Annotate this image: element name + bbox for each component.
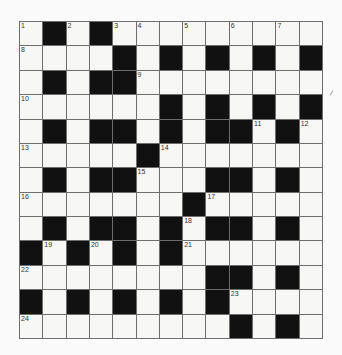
answer-cell[interactable] [67,71,89,94]
answer-cell[interactable]: 6 [230,22,252,45]
answer-cell[interactable]: 15 [137,168,159,191]
answer-cell[interactable] [67,217,89,240]
answer-cell[interactable]: 19 [43,241,65,264]
answer-cell[interactable] [90,46,112,69]
answer-cell[interactable] [206,22,228,45]
answer-cell[interactable]: 18 [183,217,205,240]
answer-cell[interactable] [183,315,205,338]
answer-cell[interactable] [253,315,275,338]
answer-cell[interactable]: 21 [183,241,205,264]
answer-cell[interactable] [230,241,252,264]
answer-cell[interactable] [183,71,205,94]
answer-cell[interactable] [67,95,89,118]
answer-cell[interactable] [300,144,322,167]
answer-cell[interactable]: 7 [276,22,298,45]
answer-cell[interactable] [206,144,228,167]
answer-cell[interactable] [160,71,182,94]
answer-cell[interactable]: 1 [20,22,42,45]
answer-cell[interactable] [113,266,135,289]
answer-cell[interactable] [137,193,159,216]
answer-cell[interactable] [137,315,159,338]
answer-cell[interactable] [230,95,252,118]
answer-cell[interactable] [206,315,228,338]
answer-cell[interactable] [183,95,205,118]
answer-cell[interactable]: 20 [90,241,112,264]
answer-cell[interactable] [253,193,275,216]
answer-cell[interactable] [300,315,322,338]
answer-cell[interactable] [276,95,298,118]
answer-cell[interactable]: 5 [183,22,205,45]
answer-cell[interactable] [90,290,112,313]
answer-cell[interactable] [20,217,42,240]
answer-cell[interactable] [160,193,182,216]
answer-cell[interactable] [90,95,112,118]
answer-cell[interactable]: 10 [20,95,42,118]
answer-cell[interactable] [276,193,298,216]
answer-cell[interactable] [230,193,252,216]
answer-cell[interactable] [137,120,159,143]
answer-cell[interactable]: 13 [20,144,42,167]
answer-cell[interactable] [183,168,205,191]
answer-cell[interactable]: 16 [20,193,42,216]
answer-cell[interactable] [137,46,159,69]
answer-cell[interactable] [230,71,252,94]
answer-cell[interactable] [113,193,135,216]
answer-cell[interactable] [43,315,65,338]
answer-cell[interactable]: 24 [20,315,42,338]
answer-cell[interactable] [20,168,42,191]
answer-cell[interactable] [137,241,159,264]
answer-cell[interactable] [276,290,298,313]
answer-cell[interactable] [300,217,322,240]
answer-cell[interactable] [300,168,322,191]
answer-cell[interactable] [253,217,275,240]
answer-cell[interactable] [20,71,42,94]
answer-cell[interactable] [67,46,89,69]
answer-cell[interactable] [20,120,42,143]
answer-cell[interactable] [43,46,65,69]
answer-cell[interactable] [300,290,322,313]
answer-cell[interactable] [300,241,322,264]
answer-cell[interactable] [183,290,205,313]
answer-cell[interactable] [137,290,159,313]
answer-cell[interactable] [137,266,159,289]
answer-cell[interactable] [276,144,298,167]
answer-cell[interactable] [67,266,89,289]
answer-cell[interactable] [43,144,65,167]
answer-cell[interactable]: 8 [20,46,42,69]
answer-cell[interactable] [43,95,65,118]
answer-cell[interactable]: 22 [20,266,42,289]
answer-cell[interactable] [43,266,65,289]
answer-cell[interactable] [253,241,275,264]
answer-cell[interactable] [253,266,275,289]
answer-cell[interactable] [137,95,159,118]
answer-cell[interactable] [67,144,89,167]
answer-cell[interactable] [67,168,89,191]
answer-cell[interactable] [113,144,135,167]
answer-cell[interactable] [253,290,275,313]
answer-cell[interactable]: 17 [206,193,228,216]
answer-cell[interactable] [67,315,89,338]
answer-cell[interactable] [276,241,298,264]
answer-cell[interactable] [113,315,135,338]
answer-cell[interactable] [183,266,205,289]
answer-cell[interactable] [276,46,298,69]
answer-cell[interactable] [160,266,182,289]
answer-cell[interactable]: 12 [300,120,322,143]
answer-cell[interactable] [230,46,252,69]
answer-cell[interactable] [300,266,322,289]
answer-cell[interactable] [90,266,112,289]
answer-cell[interactable]: 2 [67,22,89,45]
answer-cell[interactable] [206,71,228,94]
answer-cell[interactable] [90,315,112,338]
answer-cell[interactable] [183,46,205,69]
answer-cell[interactable]: 9 [137,71,159,94]
answer-cell[interactable] [253,71,275,94]
answer-cell[interactable] [113,95,135,118]
answer-cell[interactable] [206,241,228,264]
answer-cell[interactable] [67,193,89,216]
answer-cell[interactable] [183,144,205,167]
answer-cell[interactable]: 3 [113,22,135,45]
answer-cell[interactable] [300,193,322,216]
answer-cell[interactable] [67,120,89,143]
answer-cell[interactable]: 11 [253,120,275,143]
